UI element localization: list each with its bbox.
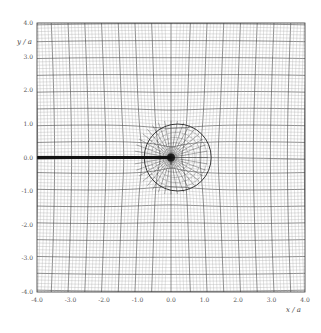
x-tick-label: -3.0 xyxy=(65,296,77,303)
y-tick-label: -1.0 xyxy=(21,187,33,194)
x-tick-labels: -4.0-3.0-2.0-1.00.01.02.03.04.0 xyxy=(31,296,310,303)
x-tick-label: 3.0 xyxy=(267,296,277,303)
mesh-grid xyxy=(28,17,314,298)
x-tick-label: 0.0 xyxy=(166,296,176,303)
y-tick-label: 0.0 xyxy=(23,154,33,161)
y-tick-label: -2.0 xyxy=(21,221,33,228)
mesh-plot: 4.03.02.01.00.0-1.0-2.0-3.0-4.0 -4.0-3.0… xyxy=(0,0,321,333)
y-tick-label: -3.0 xyxy=(21,254,33,261)
y-tick-label: 1.0 xyxy=(23,120,33,127)
x-tick-label: 4.0 xyxy=(300,296,310,303)
x-tick-label: 1.0 xyxy=(200,296,210,303)
y-tick-label: 2.0 xyxy=(23,86,33,93)
y-axis-label: y / a xyxy=(16,38,32,46)
x-tick-label: -2.0 xyxy=(98,296,110,303)
y-tick-label: 3.0 xyxy=(23,53,33,60)
y-tick-label: 4.0 xyxy=(23,19,33,26)
x-axis-label: x / a xyxy=(286,306,301,314)
x-tick-label: 2.0 xyxy=(233,296,243,303)
y-tick-label: -4.0 xyxy=(21,288,33,295)
x-tick-label: -1.0 xyxy=(132,296,144,303)
y-tick-labels: 4.03.02.01.00.0-1.0-2.0-3.0-4.0 xyxy=(21,19,33,295)
x-tick-label: -4.0 xyxy=(31,296,43,303)
